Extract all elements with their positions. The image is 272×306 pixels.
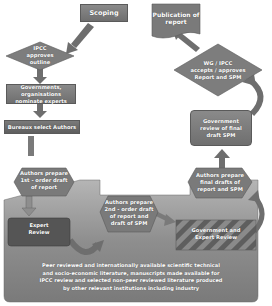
gov-review-final-box: Government review of final draft SPM (190, 110, 252, 146)
wg-accepts-node: WG / IPCC accepts / approves Report and … (186, 60, 250, 81)
expert-line-1: Expert (29, 222, 48, 229)
gov-line-2: organisations (21, 91, 61, 98)
gov-final-line-1: Government (203, 118, 239, 125)
first-draft-node: Authors prepare 1st - order draft of rep… (16, 170, 72, 191)
literature-line-1: Peer reviewed and internationally availa… (42, 262, 220, 270)
gov-final-line-2: review of final (200, 125, 242, 132)
literature-line-4: by other relevant institutions including… (63, 285, 199, 293)
final-line-1: Authors prepare (196, 172, 244, 179)
gov-line-1: Governments, (20, 84, 61, 91)
first-draft-line-2: 1st - order draft (20, 177, 67, 184)
gov-final-line-3: draft SPM (206, 132, 235, 139)
bureaux-label: Bureaux select Authors (8, 124, 76, 131)
arrow-gov-to-bureau (37, 104, 43, 112)
first-draft-line-1: Authors prepare (20, 170, 68, 177)
gov-expert-review-node: Government and Expert Review (176, 227, 256, 241)
ipcc-approves-node: IPCC approves outline (14, 45, 66, 66)
publication-label: Publication of report (152, 11, 200, 25)
wg-line-3: Report and SPM (194, 74, 241, 81)
first-draft-line-3: of report (31, 184, 57, 191)
literature-node: Peer reviewed and internationally availa… (8, 262, 254, 292)
second-line-1: Authors prepare (105, 199, 153, 206)
expert-line-2: Review (29, 229, 50, 236)
ipcc-line-3: outline (30, 59, 51, 66)
gov-expert-line-1: Government and (192, 227, 241, 234)
gov-expert-line-2: Expert Review (195, 234, 237, 241)
gov-line-3: nominate experts (15, 98, 67, 105)
bureaux-select-box: Bureaux select Authors (4, 120, 80, 134)
final-drafts-node: Authors prepare final drafts of report a… (192, 172, 248, 193)
second-line-2: 2nd - order draft (104, 206, 153, 213)
arrow-scoping-to-ipcc (71, 23, 94, 48)
wg-line-2: accepts / approves (191, 67, 246, 74)
literature-line-2: and socio-economic literature, manuscrip… (43, 270, 220, 278)
wg-line-1: WG / IPCC (204, 60, 233, 67)
final-line-3: report and SPM (197, 186, 243, 193)
second-line-4: draft of SPM (111, 220, 148, 227)
literature-line-3: IPCC review and selected non-peer review… (40, 277, 223, 285)
ipcc-line-2: approves (26, 52, 53, 59)
second-draft-node: Authors prepare 2nd - order draft of rep… (102, 199, 156, 227)
final-line-2: final drafts of (200, 179, 240, 186)
arrow-bureau-to-first-draft (28, 136, 34, 156)
publication-node: Publication of report (152, 6, 200, 30)
ipcc-line-1: IPCC (33, 45, 46, 52)
scoping-label: Scoping (89, 10, 118, 17)
scoping-box: Scoping (80, 4, 128, 22)
governments-nominate-box: Governments, organisations nominate expe… (6, 84, 76, 104)
expert-review-node: Expert Review (8, 222, 70, 236)
second-line-3: of report and (110, 213, 149, 220)
